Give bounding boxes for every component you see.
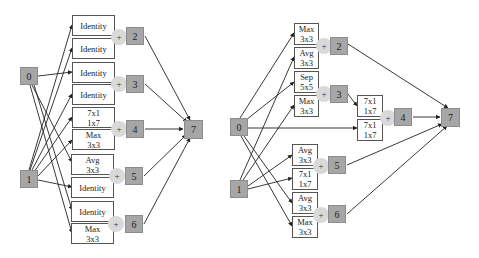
plus-glyph: + xyxy=(113,219,118,229)
op-box-avg-3x3: Avg3x3 xyxy=(294,47,319,69)
add-icon: + xyxy=(109,168,125,184)
op-label: 7x1 xyxy=(364,96,377,106)
add-icon: + xyxy=(111,121,127,137)
add-icon: + xyxy=(111,76,127,92)
node-label: 3 xyxy=(133,79,138,90)
op-box-identity: Identity xyxy=(71,177,114,198)
op-label: Max xyxy=(85,224,101,234)
add-icon: + xyxy=(313,158,329,174)
node-label: 0 xyxy=(237,122,242,133)
hidden-node-6: 6 xyxy=(125,215,143,233)
node-label: 5 xyxy=(335,160,340,171)
plus-glyph: + xyxy=(116,124,121,134)
node-label: 4 xyxy=(401,112,406,123)
node-label: 6 xyxy=(335,209,340,220)
output-node-7: 7 xyxy=(441,108,460,127)
op-box-identity: Identity xyxy=(72,62,115,83)
op-box-identity: Identity xyxy=(72,84,115,105)
plus-glyph: + xyxy=(116,79,121,89)
node-label: 6 xyxy=(132,219,137,230)
op-label: Identity xyxy=(80,90,106,100)
node-label: 2 xyxy=(337,41,342,52)
op-label: Identity xyxy=(79,183,105,193)
hidden-node-5: 5 xyxy=(125,167,143,185)
input-node-1: 1 xyxy=(20,170,38,188)
op-box-max-3x3: Max3x3 xyxy=(294,23,319,45)
op-label: Max xyxy=(299,96,315,106)
hidden-node-3: 3 xyxy=(330,85,348,103)
op-label: Avg xyxy=(298,145,312,155)
op-label: 1x7 xyxy=(364,106,377,116)
op-label: Max xyxy=(297,217,313,227)
node-label: 1 xyxy=(27,174,32,185)
add-icon: + xyxy=(111,29,127,45)
node-label: 5 xyxy=(132,171,137,182)
op-label: 7x1 xyxy=(299,169,312,179)
hidden-node-4: 4 xyxy=(394,108,412,126)
op-label: 3x3 xyxy=(87,140,100,150)
node-label: 0 xyxy=(27,71,32,82)
op-label: Identity xyxy=(79,207,105,217)
node-label: 4 xyxy=(133,124,138,135)
node-label: 7 xyxy=(191,124,196,135)
output-node-7: 7 xyxy=(184,120,203,139)
plus-glyph: + xyxy=(318,161,323,171)
op-box-avg-3x3: Avg3x3 xyxy=(71,154,114,175)
op-box-identity: Identity xyxy=(72,15,115,36)
node-label: 1 xyxy=(237,184,242,195)
op-label: Max xyxy=(299,24,315,34)
add-icon: + xyxy=(313,207,329,223)
nas-cells-diagram: 0 1 Identity Identity Identity Identity … xyxy=(0,0,479,258)
op-label: 3x3 xyxy=(300,106,313,116)
input-node-1: 1 xyxy=(230,180,248,198)
op-label: 1x7 xyxy=(87,118,100,128)
op-label: Identity xyxy=(80,21,106,31)
op-label: Identity xyxy=(80,44,106,54)
node-label: 7 xyxy=(448,112,453,123)
op-label: Avg xyxy=(298,193,312,203)
plus-glyph: + xyxy=(321,41,326,51)
op-label: 1x7 xyxy=(299,179,312,189)
op-label: Avg xyxy=(85,155,99,165)
plus-glyph: + xyxy=(385,113,390,123)
op-box-7x1-1x7: 7x11x7 xyxy=(357,95,383,117)
hidden-node-5: 5 xyxy=(328,156,346,174)
input-node-0: 0 xyxy=(20,67,38,85)
op-box-7x1-1x7: 7x11x7 xyxy=(357,119,383,141)
input-node-0: 0 xyxy=(230,118,248,136)
plus-glyph: + xyxy=(321,89,326,99)
op-box-7x1-1x7: 7x11x7 xyxy=(72,107,115,128)
node-label: 2 xyxy=(133,31,138,42)
op-label: 3x3 xyxy=(300,58,313,68)
op-label: Sep xyxy=(300,72,313,82)
op-box-identity: Identity xyxy=(72,38,115,59)
plus-glyph: + xyxy=(318,210,323,220)
op-box-max-3x3: Max3x3 xyxy=(294,95,319,117)
op-label: Identity xyxy=(80,68,106,78)
op-label: Max xyxy=(86,130,102,140)
hidden-node-3: 3 xyxy=(126,75,144,93)
op-label: 1x7 xyxy=(364,130,377,140)
op-label: 3x3 xyxy=(299,203,312,213)
op-label: 5x5 xyxy=(300,82,313,92)
op-label: 3x3 xyxy=(86,234,99,244)
op-label: 7x1 xyxy=(87,108,100,118)
plus-glyph: + xyxy=(116,32,121,42)
node-label: 3 xyxy=(337,89,342,100)
op-label: 3x3 xyxy=(86,165,99,175)
op-label: 3x3 xyxy=(299,227,312,237)
op-label: Avg xyxy=(299,48,313,58)
add-icon: + xyxy=(108,216,124,232)
op-box-identity: Identity xyxy=(71,201,114,222)
hidden-node-6: 6 xyxy=(328,205,346,223)
plus-glyph: + xyxy=(114,171,119,181)
hidden-node-2: 2 xyxy=(126,27,144,45)
op-label: 3x3 xyxy=(299,155,312,165)
hidden-node-2: 2 xyxy=(330,37,348,55)
op-label: 3x3 xyxy=(300,34,313,44)
op-box-sep-5x5: Sep5x5 xyxy=(294,71,319,93)
op-box-max-3x3: Max3x3 xyxy=(72,129,115,150)
hidden-node-4: 4 xyxy=(126,120,144,138)
op-label: 7x1 xyxy=(364,120,377,130)
